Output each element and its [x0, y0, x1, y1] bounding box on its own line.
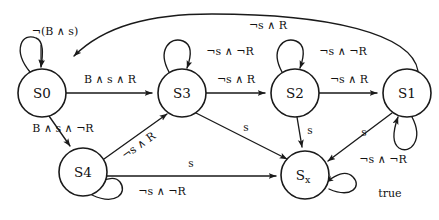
edge-s0-self-loop: [20, 37, 42, 72]
edge-s3-self-loop: [164, 40, 190, 72]
state-label-s1: S1: [398, 85, 416, 101]
edge-label-s1-to-sx: s: [361, 126, 366, 138]
edge-label-s0-to-s4: B ∧ s ∧ ¬R: [32, 122, 94, 135]
state-label-s0: S0: [33, 85, 51, 101]
edge-label-s1-self-loop: ¬s ∧ ¬R: [359, 153, 407, 166]
state-label-s3: S3: [173, 85, 191, 101]
state-machine-diagram: S0 S3 S2 S1 S4 Sx ¬(B ∧ s) ¬s ∧ R B ∧ s …: [0, 0, 439, 220]
fsm-canvas: S0 S3 S2 S1 S4 Sx ¬(B ∧ s) ¬s ∧ R B ∧ s …: [0, 0, 439, 220]
edge-s2-to-sx: [297, 117, 302, 147]
edge-label-s1-to-s0: ¬s ∧ R: [249, 19, 288, 32]
edge-label-s3-self-loop: ¬s ∧ ¬R: [206, 45, 254, 58]
edge-label-s4-to-sx: s: [188, 157, 193, 169]
edge-label-s2-to-sx: s: [307, 124, 312, 136]
edge-label-sx-self-loop: true: [378, 187, 401, 200]
edge-s3-to-sx: [196, 113, 287, 159]
edge-label-s0-self-loop: ¬(B ∧ s): [32, 25, 79, 38]
state-label-sx-subscript: x: [305, 173, 311, 184]
edge-label-s3-to-s2: ¬s ∧ R: [217, 73, 256, 86]
edge-s1-to-s0: [74, 14, 418, 71]
edge-label-s2-to-s1: ¬s ∧ R: [330, 73, 369, 86]
edge-label-s0-to-s3: B ∧ s ∧ R: [84, 73, 137, 86]
edge-sx-self-loop: [326, 173, 356, 192]
edge-s1-self-loop: [394, 117, 417, 150]
state-label-s4: S4: [74, 164, 92, 180]
state-label-s2: S2: [286, 85, 304, 101]
edge-label-s3-to-sx: s: [243, 121, 248, 133]
edge-label-s4-self-loop: ¬s ∧ ¬R: [138, 185, 186, 198]
state-label-sx-base: S: [296, 167, 305, 183]
edge-s2-self-loop: [277, 40, 303, 72]
edge-label-s2-self-loop: ¬s ∧ ¬R: [319, 45, 367, 58]
